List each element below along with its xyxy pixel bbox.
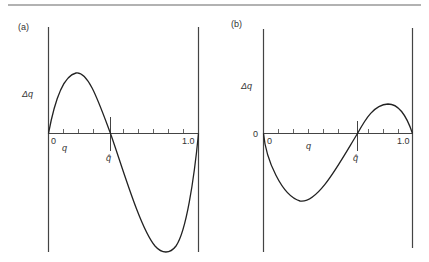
- panel-b-x-end-label: 1.0: [397, 136, 410, 146]
- panel-b: (b) 0 Δq 0 q q̂ 1.0: [231, 19, 413, 252]
- panel-b-x-ticks: [279, 129, 399, 133]
- panel-a-equilibrium-label: q̂: [106, 153, 111, 163]
- panel-a-y-label: Δq: [21, 89, 33, 99]
- panel-b-x-start-label: 0: [267, 136, 272, 146]
- panel-a-x-ticks: [64, 129, 184, 133]
- panel-b-y-label: Δq: [240, 81, 252, 91]
- panel-b-equilibrium-label: q̂: [353, 153, 358, 163]
- panel-b-label: (b): [231, 19, 242, 29]
- panel-a: (a) Δq 0 q q̂ 1.0: [18, 22, 199, 252]
- panel-a-x-end-label: 1.0: [182, 136, 195, 146]
- panel-a-x-label: q: [62, 143, 67, 153]
- figure-canvas: (a) Δq 0 q q̂ 1.0 (b): [0, 0, 429, 262]
- panel-b-x-label: q: [306, 141, 311, 151]
- panel-a-x-start-label: 0: [51, 136, 56, 146]
- panel-b-y-zero-label: 0: [253, 129, 258, 139]
- panel-a-curve: [49, 73, 199, 252]
- panel-a-label: (a): [18, 22, 29, 32]
- panel-b-curve: [264, 104, 413, 201]
